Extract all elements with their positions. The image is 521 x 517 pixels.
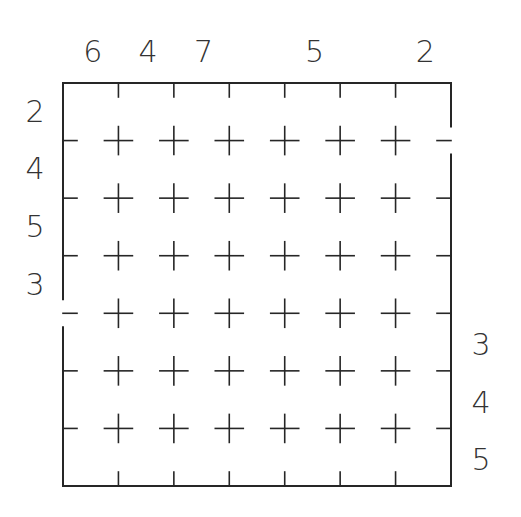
- grid-cell-r7-c6[interactable]: [340, 428, 395, 486]
- grid-cell-r3-c7[interactable]: [396, 198, 451, 256]
- clue-top-1: 6: [73, 35, 113, 69]
- grid-cell-r7-c1[interactable]: [63, 428, 118, 486]
- grid-cell-r6-c5[interactable]: [285, 371, 340, 429]
- clue-top-7: 2: [405, 35, 445, 69]
- grid-cell-r5-c5[interactable]: [285, 313, 340, 371]
- clue-top-3: 7: [184, 35, 224, 69]
- grid-cell-r4-c1[interactable]: [63, 256, 118, 314]
- grid-cell-r5-c4[interactable]: [229, 313, 284, 371]
- grid-cell-r7-c4[interactable]: [229, 428, 284, 486]
- grid-cell-r2-c3[interactable]: [174, 141, 229, 199]
- grid-cell-r4-c3[interactable]: [174, 256, 229, 314]
- grid-cell-r6-c6[interactable]: [340, 371, 395, 429]
- grid-cell-r4-c7[interactable]: [396, 256, 451, 314]
- clue-top-2: 4: [128, 35, 168, 69]
- grid-cell-r5-c2[interactable]: [118, 313, 173, 371]
- grid-cell-r3-c4[interactable]: [229, 198, 284, 256]
- grid-cell-r2-c4[interactable]: [229, 141, 284, 199]
- grid-cell-r5-c3[interactable]: [174, 313, 229, 371]
- grid-cell-r4-c6[interactable]: [340, 256, 395, 314]
- grid-cell-r2-c5[interactable]: [285, 141, 340, 199]
- grid-cell-r7-c7[interactable]: [396, 428, 451, 486]
- clue-left-2: 4: [15, 152, 55, 186]
- clue-right-6: 4: [461, 386, 501, 420]
- grid-cell-r1-c6[interactable]: [340, 83, 395, 141]
- grid-cell-r4-c5[interactable]: [285, 256, 340, 314]
- grid-cell-r3-c2[interactable]: [118, 198, 173, 256]
- grid-cell-r6-c2[interactable]: [118, 371, 173, 429]
- grid-cell-r5-c1[interactable]: [63, 313, 118, 371]
- grid-cell-r3-c5[interactable]: [285, 198, 340, 256]
- clue-right-7: 5: [461, 443, 501, 477]
- clue-right-5: 3: [461, 328, 501, 362]
- grid-cell-r5-c7[interactable]: [396, 313, 451, 371]
- grid-cell-r2-c7[interactable]: [396, 141, 451, 199]
- grid-cell-r6-c4[interactable]: [229, 371, 284, 429]
- grid-cell-r6-c3[interactable]: [174, 371, 229, 429]
- clue-top-5: 5: [294, 35, 334, 69]
- grid-cell-r7-c5[interactable]: [285, 428, 340, 486]
- grid-cell-r1-c4[interactable]: [229, 83, 284, 141]
- grid-cell-r3-c1[interactable]: [63, 198, 118, 256]
- puzzle-board: 647522453345: [0, 0, 521, 517]
- clue-left-4: 3: [15, 268, 55, 302]
- grid-cell-r2-c6[interactable]: [340, 141, 395, 199]
- grid-cell-r3-c6[interactable]: [340, 198, 395, 256]
- grid-cell-r7-c3[interactable]: [174, 428, 229, 486]
- grid-cell-r1-c5[interactable]: [285, 83, 340, 141]
- grid-cell-r4-c2[interactable]: [118, 256, 173, 314]
- grid-cell-r1-c1[interactable]: [63, 83, 118, 141]
- clue-left-3: 5: [15, 210, 55, 244]
- clue-left-1: 2: [15, 95, 55, 129]
- grid-cell-r2-c1[interactable]: [63, 141, 118, 199]
- grid-cell-r1-c3[interactable]: [174, 83, 229, 141]
- grid-cell-r1-c7[interactable]: [396, 83, 451, 141]
- grid-cell-r6-c1[interactable]: [63, 371, 118, 429]
- grid-cell-r5-c6[interactable]: [340, 313, 395, 371]
- grid-cell-r3-c3[interactable]: [174, 198, 229, 256]
- grid-cell-r4-c4[interactable]: [229, 256, 284, 314]
- grid-cell-r1-c2[interactable]: [118, 83, 173, 141]
- grid-cell-r7-c2[interactable]: [118, 428, 173, 486]
- grid-cell-r2-c2[interactable]: [118, 141, 173, 199]
- grid-cell-r6-c7[interactable]: [396, 371, 451, 429]
